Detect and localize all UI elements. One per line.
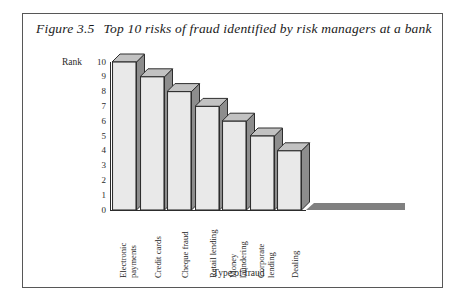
- figure-caption: Figure 3.5Top 10 risks of fraud identifi…: [36, 21, 432, 37]
- figure-number: Figure 3.5: [36, 21, 95, 36]
- figure-title: Top 10 risks of fraud identified by risk…: [104, 21, 432, 36]
- figure-border: [22, 13, 443, 288]
- figure-page: Figure 3.5Top 10 risks of fraud identifi…: [0, 0, 465, 303]
